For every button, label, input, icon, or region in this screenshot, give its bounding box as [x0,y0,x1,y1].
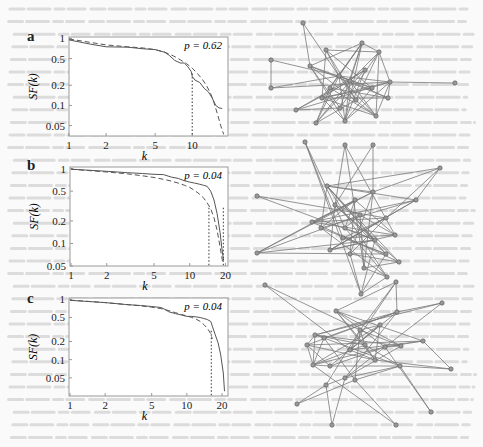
network-edge [297,385,326,404]
network-edge [332,378,345,425]
chart-c: 125102010.50.20.10.05kSF(k)p = 0.04 [0,262,240,422]
network-node [324,48,328,52]
y-tick-label: 0.1 [51,99,65,111]
network-node [397,260,401,264]
network-node [393,233,397,237]
network-node [330,423,334,427]
network-node [371,190,375,194]
network-node [303,140,307,144]
network-node [255,194,259,198]
network-node [354,98,358,102]
network-node [363,68,367,72]
network-node [343,119,347,123]
network-edge [313,365,330,366]
network-edge [362,43,379,52]
network-edge [379,52,390,82]
network-node [384,252,388,256]
network-node [343,143,347,147]
y-axis-label: SF(k) [26,334,40,361]
y-tick-label: 0.5 [52,185,66,197]
network-node [310,220,314,224]
network-edge [350,254,361,294]
network-edge [400,366,451,369]
network-edge [303,23,339,76]
y-tick-label: 0.1 [52,237,66,249]
network-node [319,226,323,230]
network-edge [313,365,396,425]
network-edge [416,168,440,200]
network-node [378,323,382,327]
plot-area [69,37,228,136]
network-node [371,143,375,147]
network-node [388,80,392,84]
network-edge [376,52,379,116]
network-node [373,238,377,242]
network-edge [396,282,397,312]
y-tick-label: 0.2 [52,215,66,227]
network-node [328,86,332,90]
network-c [263,280,453,427]
network-edge [335,145,373,205]
network-node [305,343,309,347]
network-node [341,236,345,240]
plot-area [69,298,228,396]
network-node [320,96,324,100]
network-node [374,114,378,118]
network-node [383,345,387,349]
network-node [399,344,403,348]
x-tick-label: 10 [181,399,193,411]
network-edge [265,285,350,350]
network-node [328,248,332,252]
network-node [429,410,433,414]
y-tick-label: 0.5 [51,311,65,323]
network-edge [375,360,451,369]
network-node [358,328,362,332]
network-node [313,333,317,337]
x-tick-label: 5 [149,399,155,411]
network-graphs [240,0,483,447]
network-node [343,376,347,380]
network-node [348,79,352,83]
network-node [373,358,377,362]
network-node [325,184,329,188]
network-edge [423,341,451,369]
network-node [348,348,352,352]
network-node [333,203,337,207]
network-node [359,292,363,296]
network-node [334,309,338,313]
network-b [255,140,442,296]
network-node [395,310,399,314]
network-node [294,108,298,112]
network-node [370,86,374,90]
x-tick-label: 20 [217,399,229,411]
network-node [394,423,398,427]
network-node [398,364,402,368]
network-edge [316,88,330,123]
network-node [440,301,444,305]
network-node [453,81,457,85]
network-node [384,216,388,220]
network-node [438,166,442,170]
network-edge [400,366,431,412]
network-node [394,280,398,284]
network-node [308,64,312,68]
network-node [314,121,318,125]
network-node [311,363,315,367]
network-node [337,74,341,78]
network-edge [326,50,379,52]
x-tick-label: 2 [102,399,108,411]
network-node [449,367,453,371]
network-node [324,383,328,387]
network-edge [315,312,397,335]
network-node [385,275,389,279]
network-node [421,339,425,343]
y-tick-label: 0.5 [51,53,65,65]
network-a [269,21,457,125]
p-value-annotation: p = 0.04 [183,169,222,181]
network-node [295,402,299,406]
y-tick-label: 0.2 [51,335,65,347]
network-edge [303,23,310,66]
network-node [269,86,273,90]
network-node [353,198,357,202]
network-node [363,343,367,347]
